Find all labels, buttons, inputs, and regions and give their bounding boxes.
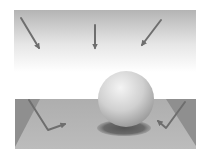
sky-gradient bbox=[14, 10, 196, 72]
light-diagram bbox=[0, 0, 206, 159]
sphere bbox=[98, 71, 154, 127]
diagram-canvas bbox=[0, 0, 206, 159]
